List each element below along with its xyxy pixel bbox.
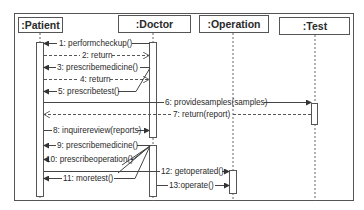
- message-3: 3: prescribemedicine(): [44, 63, 150, 72]
- svg-text:5: prescribetest(): 5: prescribetest(): [58, 87, 120, 96]
- svg-text:8: inquirereview(reports): 8: inquirereview(reports): [53, 126, 142, 135]
- svg-text:6: providesamples(samples): 6: providesamples(samples): [165, 98, 268, 107]
- svg-text:11: moretest(): 11: moretest(): [63, 174, 114, 183]
- svg-text:3: prescribemedicine(): 3: prescribemedicine(): [57, 63, 138, 72]
- lifeline-label-doctor: :Doctor: [136, 18, 173, 30]
- activation-operation: [230, 171, 237, 194]
- svg-text:12: getoperated(): 12: getoperated(): [161, 167, 224, 176]
- svg-text:1: performcheckup(): 1: performcheckup(): [59, 39, 133, 48]
- lifeline-label-operation: :Operation: [207, 18, 260, 30]
- sequence-diagram: :Patient :Doctor :Operation :Test 1: per…: [0, 0, 364, 210]
- message-9: 9: prescribemedicine(): [44, 141, 150, 150]
- activation-patient: [37, 43, 44, 197]
- svg-text:9: prescribemedicine(): 9: prescribemedicine(): [57, 141, 138, 150]
- activation-doctor-1: [150, 43, 157, 138]
- lifeline-label-patient: :Patient: [21, 19, 60, 31]
- activation-test: [312, 104, 318, 125]
- svg-text:13:operate(): 13:operate(): [169, 181, 214, 190]
- lifeline-label-test: :Test: [303, 20, 328, 32]
- svg-text:7: return(report): 7: return(report): [173, 110, 231, 119]
- message-8: 8: inquirereview(reports): [44, 126, 149, 135]
- svg-text:2: return: 2: return: [82, 51, 113, 60]
- svg-text:10: prescribeoperation(): 10: prescribeoperation(): [46, 155, 133, 164]
- svg-text:4: return: 4: return: [80, 75, 111, 84]
